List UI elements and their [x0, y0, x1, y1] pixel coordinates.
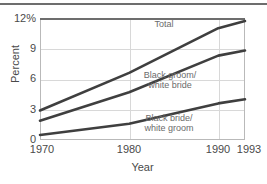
x-axis-tick-1990: 1990 — [206, 143, 230, 155]
series-line-total — [40, 21, 245, 110]
x-axis-tick-1970: 1970 — [30, 143, 54, 155]
chart-figure: 12% 9 6 3 0 Percent Total Black groom/ w… — [0, 0, 267, 184]
top-divider-rule — [0, 3, 267, 5]
y-axis-tick-3: 3 — [0, 104, 36, 115]
series-annotation-total: Total — [147, 19, 181, 29]
x-axis-tick-1980: 1980 — [117, 143, 141, 155]
y-axis-label: Percent — [9, 29, 21, 99]
series-annotation-black-bride-white-groom-line2: white groom — [131, 123, 207, 133]
series-annotation-black-bride-white-groom-line1: Black bride/ — [131, 113, 207, 123]
x-axis-label: Year — [40, 161, 245, 173]
x-axis-tick-1993: 1993 — [237, 143, 261, 155]
y-axis-tick-12: 12% — [0, 13, 36, 24]
series-annotation-black-groom-white-bride-line2: white bride — [133, 80, 207, 90]
series-annotation-black-groom-white-bride-line1: Black groom/ — [133, 70, 207, 80]
